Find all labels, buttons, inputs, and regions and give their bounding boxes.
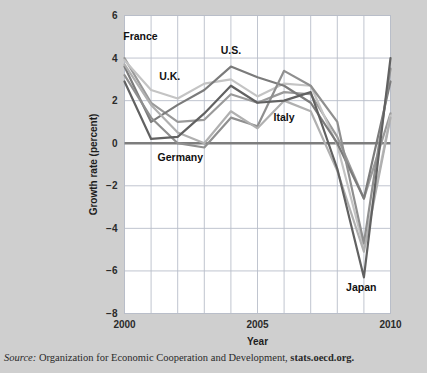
y-tick-label-5: −4 xyxy=(106,223,118,234)
source-prefix: Source: xyxy=(4,352,36,363)
series-label-uk: U.K. xyxy=(159,70,180,82)
y-tick-label-4: −2 xyxy=(106,180,118,191)
x-axis-title: Year xyxy=(247,336,268,347)
y-tick-label-6: −6 xyxy=(106,265,118,276)
x-tick-label-0: 2000 xyxy=(113,319,136,330)
source-text: Organization for Economic Cooperation an… xyxy=(36,352,290,363)
growth-rate-line-chart: 6420−2−4−6−8200020052010YearGrowth rate … xyxy=(0,0,427,373)
source-url: stats.oecd.org. xyxy=(290,352,354,363)
x-tick-label-2: 2010 xyxy=(379,319,402,330)
series-label-germany: Germany xyxy=(158,151,204,163)
chart-figure: 6420−2−4−6−8200020052010YearGrowth rate … xyxy=(0,0,427,373)
series-label-us: U.S. xyxy=(221,44,242,56)
y-tick-label-3: 0 xyxy=(112,138,118,149)
series-label-italy: Italy xyxy=(274,111,295,123)
series-label-france: France xyxy=(123,30,158,42)
series-label-japan: Japan xyxy=(346,281,376,293)
y-tick-label-1: 4 xyxy=(112,53,118,64)
y-tick-label-0: 6 xyxy=(112,10,118,21)
y-tick-label-2: 2 xyxy=(112,95,118,106)
y-tick-label-7: −8 xyxy=(106,308,118,319)
x-tick-label-1: 2005 xyxy=(246,319,269,330)
y-axis-title: Growth rate (percent) xyxy=(88,114,99,216)
source-note: Source: Organization for Economic Cooper… xyxy=(4,352,354,363)
